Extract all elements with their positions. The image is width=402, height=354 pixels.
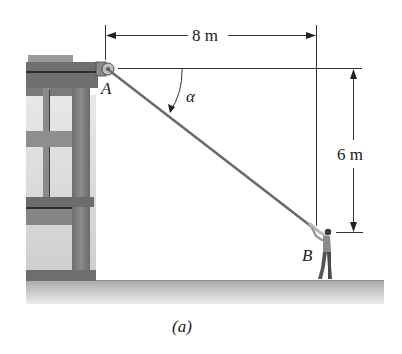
angle-alpha-label: α bbox=[186, 88, 195, 105]
dimension-8m-label: 8 m bbox=[192, 27, 218, 44]
pulley-a bbox=[96, 62, 114, 76]
ground bbox=[26, 280, 384, 304]
building bbox=[26, 55, 98, 281]
point-a-label: A bbox=[101, 80, 111, 97]
angle-alpha-arc bbox=[168, 69, 182, 113]
diagram-canvas bbox=[0, 0, 402, 354]
point-b-label: B bbox=[302, 247, 312, 264]
figure-caption: (a) bbox=[172, 318, 192, 335]
person-b bbox=[310, 224, 332, 279]
rope-ab bbox=[110, 71, 312, 227]
dimension-6m-label: 6 m bbox=[337, 146, 363, 163]
